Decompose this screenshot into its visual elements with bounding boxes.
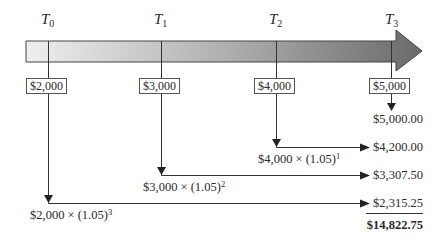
future-value-t2: $4,200.00	[343, 141, 423, 154]
time-label-t2: T2	[269, 12, 282, 29]
time-label-t0: T0	[41, 12, 54, 29]
future-value-t0: $2,315.25	[343, 197, 423, 210]
future-value-t3: $5,000.00	[343, 113, 423, 126]
deposit-box-t0: $2,000	[26, 78, 67, 94]
formula-t2: $4,000 × (1.05)1	[258, 152, 340, 166]
deposit-box-t1: $3,000	[139, 78, 180, 94]
timeline-arrow	[26, 30, 422, 71]
formula-t1: $3,000 × (1.05)2	[143, 180, 225, 194]
future-value-t1: $3,307.50	[343, 169, 423, 182]
total-future-value: $14,822.75	[343, 219, 423, 232]
formula-t0: $2,000 × (1.05)3	[30, 208, 112, 222]
time-label-t1: T1	[154, 12, 167, 29]
time-label-t3: T3	[385, 12, 398, 29]
deposit-box-t2: $4,000	[254, 78, 295, 94]
deposit-box-t3: $5,000	[369, 78, 410, 94]
